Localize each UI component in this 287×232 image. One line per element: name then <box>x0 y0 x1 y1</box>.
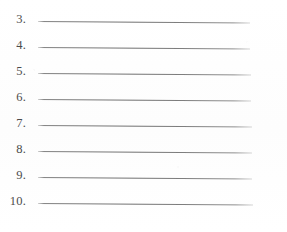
list-item-number: 7. <box>0 116 26 130</box>
list-item-number: 10. <box>0 194 26 208</box>
answer-line[interactable] <box>38 73 251 75</box>
answer-line[interactable] <box>38 47 250 49</box>
list-item: 3. <box>0 9 287 35</box>
list-item: 6. <box>0 87 287 113</box>
list-item-number: 9. <box>0 168 26 182</box>
list-item: 7. <box>0 113 287 139</box>
answer-line[interactable] <box>38 99 251 101</box>
answer-line[interactable] <box>38 203 253 205</box>
answer-line[interactable] <box>38 177 252 179</box>
list-item-number: 4. <box>0 38 26 52</box>
list-item: 4. <box>0 35 287 61</box>
list-item-number: 6. <box>0 90 26 104</box>
list-item: 5. <box>0 61 287 87</box>
list-item: 8. <box>0 139 287 165</box>
list-item-number: 8. <box>0 142 26 156</box>
answer-line[interactable] <box>38 151 252 153</box>
list-item-number: 5. <box>0 64 26 78</box>
answer-line[interactable] <box>38 125 252 127</box>
list-item-number: 3. <box>0 12 26 26</box>
answer-line[interactable] <box>38 21 250 23</box>
list-item: 10. <box>0 191 287 217</box>
list-item: 9. <box>0 165 287 191</box>
worksheet-page: 3.4.5.6.7.8.9.10. <box>0 0 287 232</box>
